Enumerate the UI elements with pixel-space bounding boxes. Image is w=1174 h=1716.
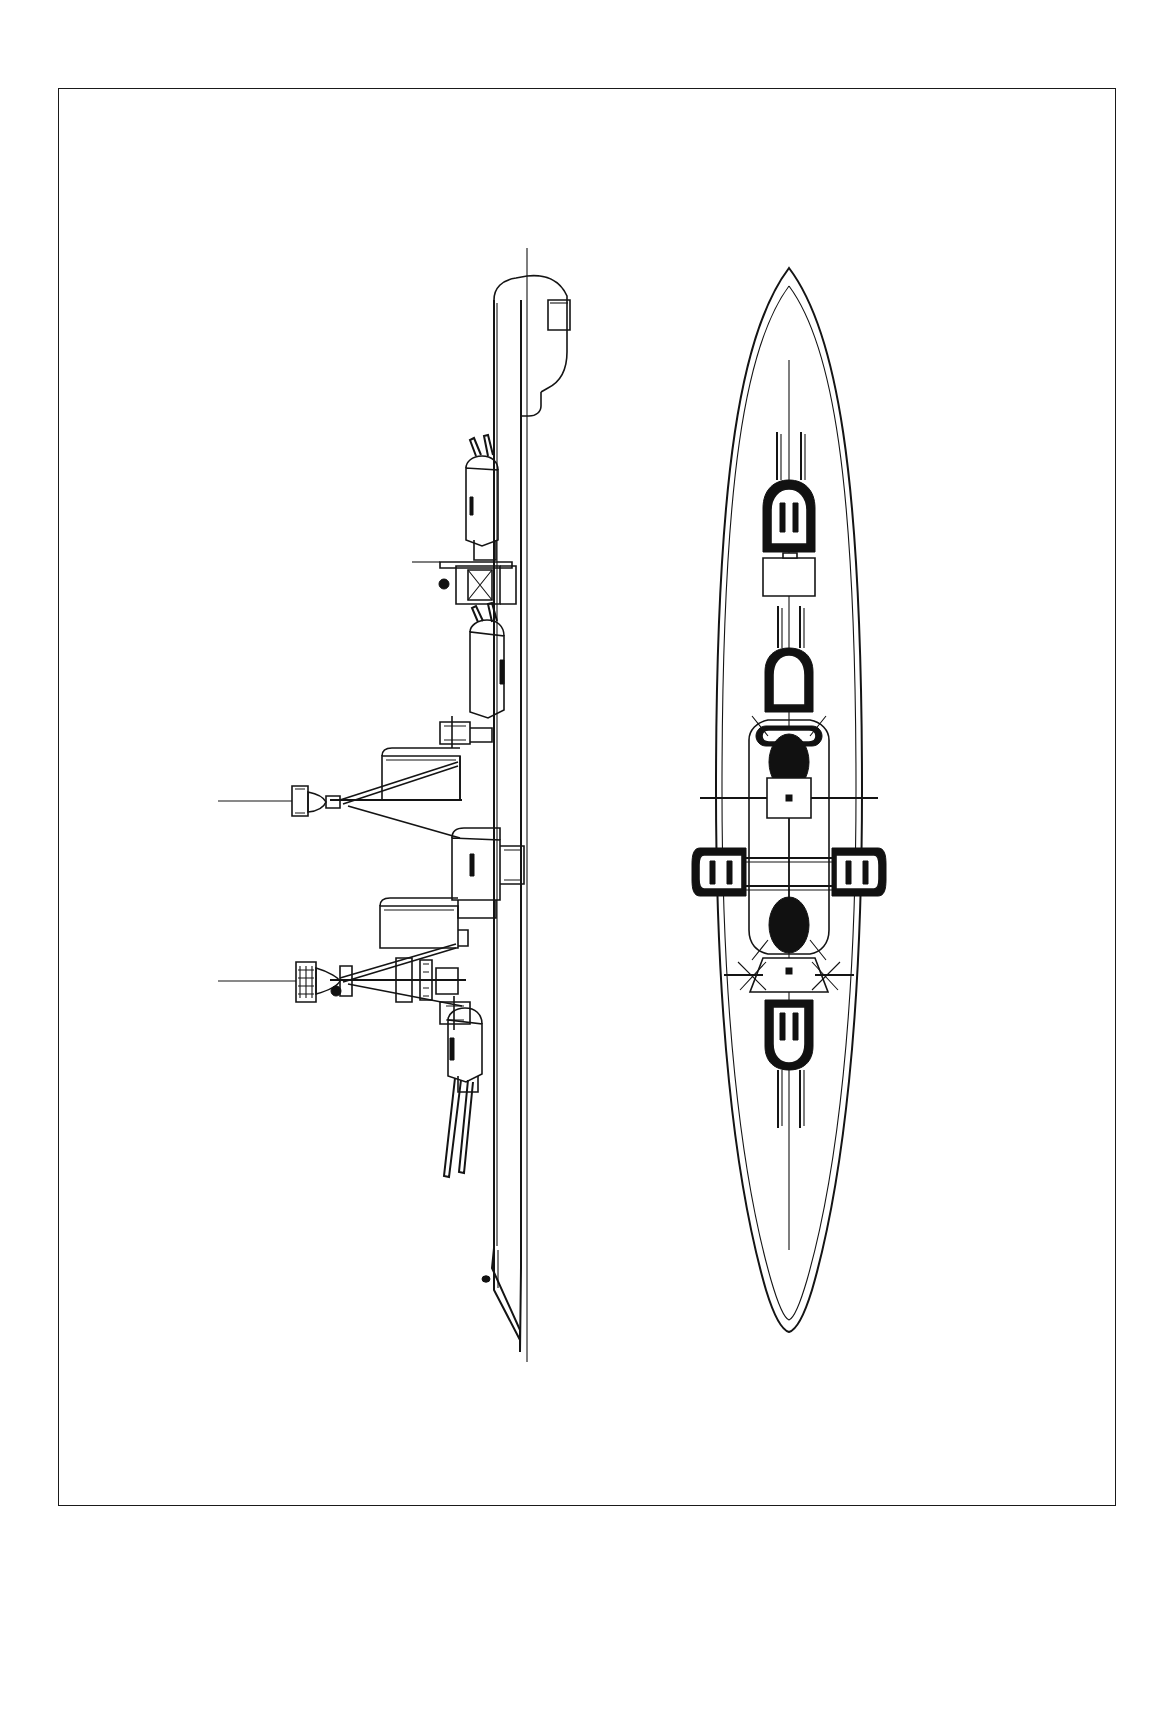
elevation-mast-aft <box>218 944 466 1006</box>
elevation-deck-fitting-a <box>440 716 492 748</box>
drawing-sheet: .ln{fill:none;stroke:#141414;stroke-widt… <box>0 0 1174 1716</box>
side-elevation-view <box>218 248 570 1362</box>
plan-turret-starboard <box>786 848 886 896</box>
plan-view <box>692 268 886 1332</box>
plan-superstructure <box>700 716 878 960</box>
elevation-hull <box>482 276 570 1352</box>
elevation-turret-a <box>444 1008 482 1177</box>
elevation-turret-b <box>470 603 504 718</box>
plan-deckhouse <box>763 553 815 596</box>
elevation-bridge <box>452 828 524 918</box>
plan-boat-deck <box>724 958 854 992</box>
anchor-hawse-icon <box>482 1276 490 1282</box>
elevation-mast-forward <box>218 762 462 838</box>
elevation-midships-block <box>380 898 468 948</box>
plan-turret-port <box>692 848 792 896</box>
elevation-aft-superstructure <box>412 562 516 604</box>
ship-drawing: .ln{fill:none;stroke:#141414;stroke-widt… <box>0 0 1174 1716</box>
funnel-aft <box>769 897 809 953</box>
fighting-top-forward <box>292 786 308 816</box>
elevation-deck-fitting-b <box>440 996 470 1030</box>
